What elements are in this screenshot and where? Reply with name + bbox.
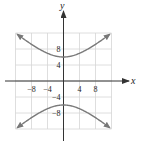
y-tick-label: 8 xyxy=(57,45,61,54)
y-axis-label: y xyxy=(59,0,65,11)
axes xyxy=(5,11,129,141)
y-tick-label: −8 xyxy=(52,109,61,118)
x-axis-label: x xyxy=(130,75,136,86)
y-tick-label: 4 xyxy=(57,61,61,70)
x-tick-label: 4 xyxy=(78,85,82,94)
x-tick-label: −4 xyxy=(43,85,52,94)
x-tick-label: 8 xyxy=(94,85,98,94)
x-tick-label: −8 xyxy=(27,85,36,94)
hyperbola-graph: −8−44884−4−8 x y xyxy=(0,0,141,146)
y-tick-label: −4 xyxy=(52,93,61,102)
